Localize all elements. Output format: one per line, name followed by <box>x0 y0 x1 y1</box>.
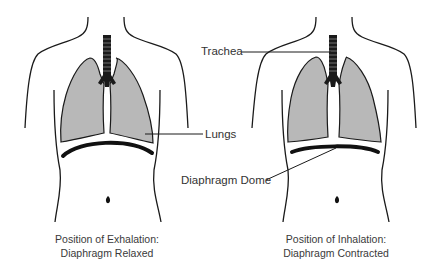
navel <box>106 196 110 203</box>
diaphragm <box>63 143 152 156</box>
navel <box>335 196 339 203</box>
figure-exhalation <box>25 17 188 222</box>
caption-inhalation-line2: Diaphragm Contracted <box>256 246 416 260</box>
caption-exhalation: Position of Exhalation: Diaphragm Relaxe… <box>27 232 187 260</box>
diaphragm <box>292 146 378 152</box>
diaphragm-dome-leader <box>266 148 336 180</box>
caption-inhalation-line1: Position of Inhalation: <box>256 232 416 246</box>
diaphragm-dome-label: Diaphragm Dome <box>181 174 271 187</box>
caption-exhalation-line1: Position of Exhalation: <box>27 232 187 246</box>
figure-inhalation <box>252 17 416 222</box>
trachea <box>98 35 116 87</box>
caption-exhalation-line2: Diaphragm Relaxed <box>27 246 187 260</box>
trachea <box>324 35 342 87</box>
caption-inhalation: Position of Inhalation: Diaphragm Contra… <box>256 232 416 260</box>
trachea-label: Trachea <box>201 45 243 58</box>
lungs-label: Lungs <box>205 128 236 141</box>
